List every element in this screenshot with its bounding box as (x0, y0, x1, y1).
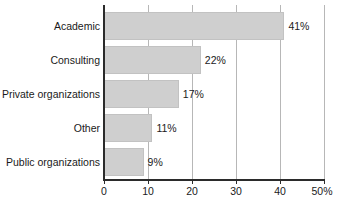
x-axis-line (103, 179, 325, 181)
category-label-academic: Academic (54, 21, 100, 32)
bar-consulting (104, 46, 201, 74)
y-axis-line (103, 5, 105, 180)
tick-mark-40 (280, 180, 281, 184)
y-axis-label-private-organizations: Private organizations (0, 80, 100, 108)
tick-mark-20 (192, 180, 193, 184)
category-label-public-organizations: Public organizations (6, 157, 100, 168)
tick-mark-30 (236, 180, 237, 184)
bar-private-organizations (104, 80, 179, 108)
y-axis-label-other: Other (0, 114, 100, 142)
bar-chart: 41% 22% 17% 11% 9% 0 10 20 30 40 50% (0, 0, 343, 201)
tick-mark-0 (104, 180, 105, 184)
bar-value-other: 11% (156, 123, 176, 134)
category-label-other: Other (74, 123, 100, 134)
bar-value-private-organizations: 17% (183, 89, 204, 100)
x-tick-label-20: 20 (186, 186, 198, 197)
bar-value-public-organizations: 9% (148, 157, 163, 168)
bar-value-academic: 41% (288, 21, 309, 32)
tick-mark-10 (148, 180, 149, 184)
bar-public-organizations (104, 148, 144, 176)
tick-mark-50 (324, 180, 325, 184)
x-tick-label-10: 10 (142, 186, 154, 197)
y-axis-label-consulting: Consulting (0, 46, 100, 74)
x-tick-label-30: 30 (230, 186, 242, 197)
bar-value-consulting: 22% (205, 55, 226, 66)
x-tick-label-40: 40 (274, 186, 286, 197)
gridline-50 (324, 5, 325, 180)
y-axis-label-public-organizations: Public organizations (0, 148, 100, 176)
category-label-private-organizations: Private organizations (2, 89, 100, 100)
plot-area: 41% 22% 17% 11% 9% (104, 5, 324, 180)
x-tick-label-0: 0 (101, 186, 107, 197)
bar-academic (104, 12, 284, 40)
y-axis-label-academic: Academic (0, 12, 100, 40)
x-tick-label-50: 50% (311, 186, 332, 197)
category-label-consulting: Consulting (50, 55, 100, 66)
bar-other (104, 114, 152, 142)
